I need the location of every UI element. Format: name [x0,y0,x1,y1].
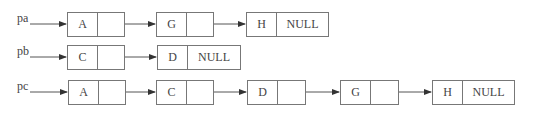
pointer-label-pb: pb [17,45,29,57]
node-data: D [158,46,188,69]
node-data: H [247,13,277,36]
node-next [98,46,124,69]
list-pc-node-D: D [247,80,306,105]
node-data: D [248,81,278,104]
node-data: C [68,46,98,69]
node-next [98,13,124,36]
node-data: G [157,13,187,36]
list-pa-node-H: H NULL [246,12,329,37]
node-next [278,81,305,104]
list-pb-node-D: D NULL [157,45,241,70]
node-next-null: NULL [463,81,514,104]
node-data: C [157,81,187,104]
node-next [187,13,213,36]
node-next-null: NULL [188,46,240,69]
list-pc-node-C: C [156,80,214,105]
list-pa-node-A: A [67,12,125,37]
node-data: A [68,13,98,36]
node-next-null: NULL [277,13,328,36]
list-pc-node-G: G [340,80,399,105]
node-data: H [433,81,463,104]
list-pb-node-C: C [67,45,125,70]
node-data: G [341,81,371,104]
list-pc-node-A: A [68,80,126,105]
pointer-label-pa: pa [17,12,28,24]
node-next [187,81,213,104]
pointer-label-pc: pc [17,80,28,92]
node-next [99,81,125,104]
list-pa-node-G: G [156,12,214,37]
node-data: A [69,81,99,104]
node-next [371,81,398,104]
list-pc-node-H: H NULL [432,80,515,105]
